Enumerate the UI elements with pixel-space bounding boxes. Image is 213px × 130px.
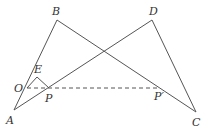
label-c: C [192, 116, 201, 129]
segment-ep [37, 77, 49, 88]
label-a: A [5, 114, 14, 127]
label-p: P [44, 92, 53, 105]
label-e: E [33, 63, 42, 76]
label-b: B [51, 5, 60, 18]
geometry-diagram: A B D C O E P P′ [0, 0, 213, 130]
label-o: O [14, 82, 23, 95]
label-d: D [148, 5, 158, 18]
segment-bc [57, 20, 196, 112]
label-p-prime: P′ [153, 90, 164, 103]
